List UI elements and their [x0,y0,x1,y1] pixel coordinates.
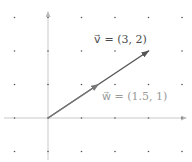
grid-dot [114,151,116,153]
grid-dot [114,84,116,86]
grid-dot [181,84,183,86]
grid-dot [148,84,150,86]
grid-dot [81,151,83,153]
grid-dot [114,50,116,52]
grid-dot [47,50,49,52]
vector-diagram: v⃗ = (3, 2) w⃗ = (1.5, 1) [0,0,192,162]
grid-dot [181,50,183,52]
grid-dot [14,50,16,52]
grid-dot [148,17,150,19]
vector-w [48,85,98,119]
grid-dot [181,17,183,19]
vector-v-label: v⃗ = (3, 2) [94,33,147,46]
grid-dot [148,117,150,119]
grid-dot [14,151,16,153]
grid-dot [81,17,83,19]
grid-dot [81,50,83,52]
grid-dot [114,117,116,119]
grid-dot [81,117,83,119]
grid-dot [14,17,16,19]
grid-dot [47,17,49,19]
grid-dot [148,151,150,153]
grid-dot [181,151,183,153]
grid-dot [47,151,49,153]
grid-dot [81,84,83,86]
grid-dot [47,84,49,86]
grid-dot [14,84,16,86]
vector-w-label: w⃗ = (1.5, 1) [102,90,167,103]
grid-dot [114,17,116,19]
grid-dot [181,117,183,119]
grid-dot [14,117,16,119]
